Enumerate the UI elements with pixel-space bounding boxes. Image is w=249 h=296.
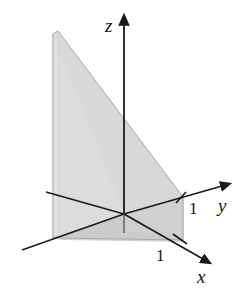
- z-axis-label: z: [104, 15, 113, 36]
- figure-container: z y x 1 1: [0, 0, 249, 296]
- y-tick-label-1: 1: [189, 199, 198, 218]
- x-tick-label-1: 1: [156, 246, 165, 265]
- y-axis-label: y: [216, 195, 227, 216]
- x-axis-label: x: [196, 266, 206, 287]
- shaded-solid-group: [53, 31, 183, 242]
- left-vertical-face: [53, 31, 58, 238]
- coordinate-figure: z y x 1 1: [0, 0, 249, 296]
